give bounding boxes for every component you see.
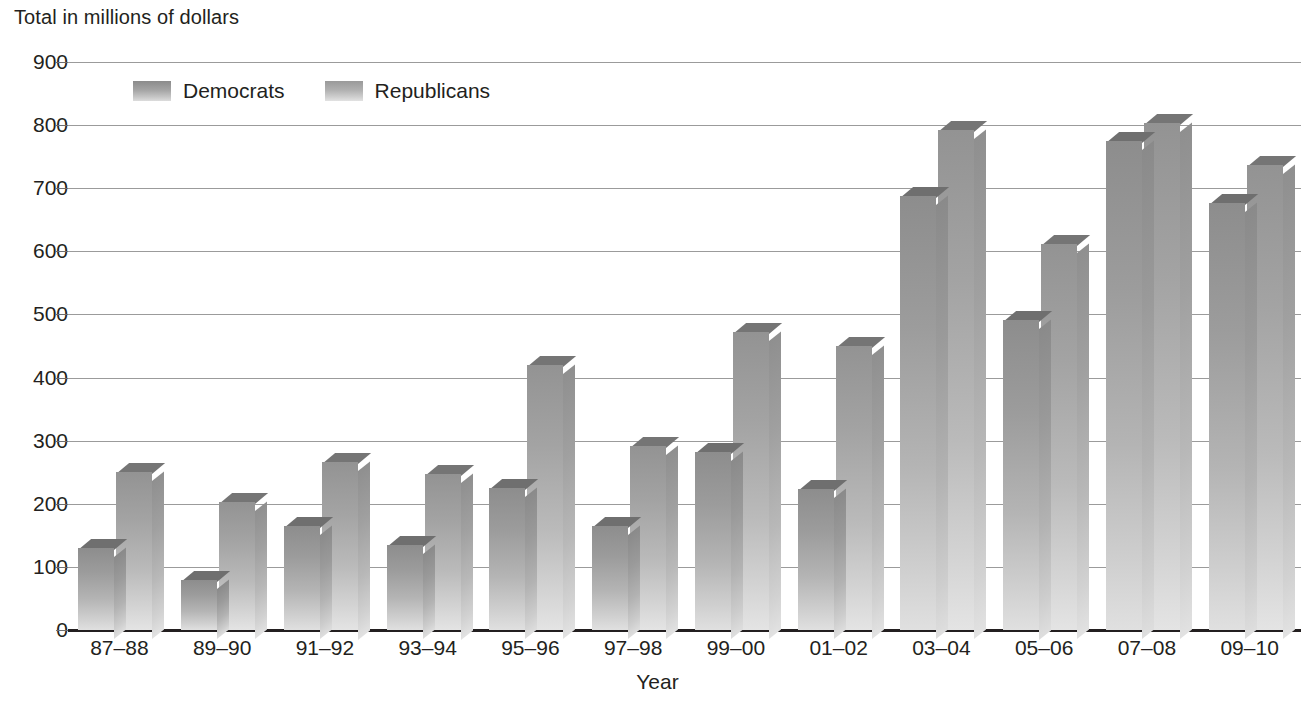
legend-label-republicans: Republicans	[375, 79, 491, 103]
bar-front-face	[1003, 320, 1039, 631]
bar-group	[274, 62, 377, 630]
x-axis-tick-label: 91–92	[296, 636, 354, 660]
bar-front-face	[181, 580, 217, 630]
bar-side-face	[769, 332, 781, 639]
legend: Democrats Republicans	[133, 79, 490, 103]
legend-swatch-democrats	[133, 81, 171, 101]
x-axis-tick-label: 09–10	[1220, 636, 1278, 660]
legend-swatch-republicans	[325, 81, 363, 101]
bar-side-face	[731, 452, 743, 639]
bar-front-face	[1209, 203, 1245, 630]
plot-area	[68, 62, 1301, 630]
bar-democrats-87-88	[78, 548, 114, 630]
bar-side-face	[1283, 164, 1295, 639]
bar-front-face	[592, 526, 628, 630]
bar-front-face	[387, 545, 423, 630]
bar-democrats-93-94	[387, 545, 423, 630]
bar-democrats-07-08	[1106, 141, 1142, 630]
bar-side-face	[563, 365, 575, 639]
bar-side-face	[255, 502, 267, 639]
bar-democrats-91-92	[284, 526, 320, 630]
bar-democrats-01-02	[798, 489, 834, 630]
bar-side-face	[1180, 122, 1192, 639]
bar-democrats-97-98	[592, 526, 628, 630]
bar-democrats-89-90	[181, 580, 217, 630]
x-axis-tick-label: 97–98	[604, 636, 662, 660]
bar-group	[787, 62, 890, 630]
x-axis-tick-label: 89–90	[193, 636, 251, 660]
bar-side-face	[423, 544, 435, 639]
bar-front-face	[284, 526, 320, 630]
bar-side-face	[1142, 141, 1154, 639]
bar-side-face	[217, 579, 229, 639]
bar-side-face	[1039, 319, 1051, 639]
bar-group	[993, 62, 1096, 630]
bar-front-face	[1106, 141, 1142, 630]
bar-side-face	[834, 489, 846, 639]
bar-side-face	[320, 525, 332, 639]
bar-group	[890, 62, 993, 630]
bar-side-face	[152, 472, 164, 639]
bar-side-face	[666, 446, 678, 639]
x-axis-tick-label: 95–96	[501, 636, 559, 660]
x-axis-title: Year	[0, 670, 1315, 694]
bar-chart: Total in millions of dollars 01002003004…	[0, 0, 1315, 704]
x-axis-tick-label: 01–02	[809, 636, 867, 660]
y-axis: 0100200300400500600700800900	[0, 62, 68, 630]
bar-front-face	[695, 452, 731, 630]
x-axis-tick-label: 87–88	[90, 636, 148, 660]
bar-group	[1198, 62, 1301, 630]
bar-group	[376, 62, 479, 630]
bar-group	[479, 62, 582, 630]
bar-democrats-95-96	[489, 488, 525, 630]
legend-item-republicans: Republicans	[325, 79, 491, 103]
bar-side-face	[525, 488, 537, 639]
bar-front-face	[489, 488, 525, 630]
bar-group	[582, 62, 685, 630]
bar-side-face	[936, 195, 948, 639]
bar-front-face	[798, 489, 834, 630]
bar-democrats-99-00	[695, 452, 731, 630]
bar-front-face	[78, 548, 114, 630]
legend-item-democrats: Democrats	[133, 79, 285, 103]
x-axis-tick-label: 99–00	[707, 636, 765, 660]
x-axis-tick-labels: 87–8889–9091–9293–9495–9697–9899–0001–02…	[68, 636, 1301, 668]
bar-groups	[68, 62, 1301, 630]
bar-side-face	[1077, 243, 1089, 639]
bar-group	[1096, 62, 1199, 630]
bar-front-face	[900, 196, 936, 630]
x-axis-tick-label: 07–08	[1118, 636, 1176, 660]
bar-group	[68, 62, 171, 630]
bar-group	[685, 62, 788, 630]
bar-side-face	[628, 525, 640, 639]
gridline	[68, 125, 1301, 126]
bar-side-face	[114, 548, 126, 639]
bar-democrats-03-04	[900, 196, 936, 630]
legend-label-democrats: Democrats	[183, 79, 285, 103]
bar-democrats-09-10	[1209, 203, 1245, 630]
x-axis-tick-label: 03–04	[912, 636, 970, 660]
bar-side-face	[358, 461, 370, 639]
bar-democrats-05-06	[1003, 320, 1039, 631]
x-axis-tick-label: 93–94	[398, 636, 456, 660]
bar-side-face	[461, 473, 473, 639]
bar-side-face	[974, 130, 986, 639]
gridline	[68, 62, 1301, 63]
bar-side-face	[872, 346, 884, 639]
x-axis-tick-label: 05–06	[1015, 636, 1073, 660]
bar-side-face	[1245, 202, 1257, 639]
bar-group	[171, 62, 274, 630]
chart-title: Total in millions of dollars	[14, 6, 239, 29]
